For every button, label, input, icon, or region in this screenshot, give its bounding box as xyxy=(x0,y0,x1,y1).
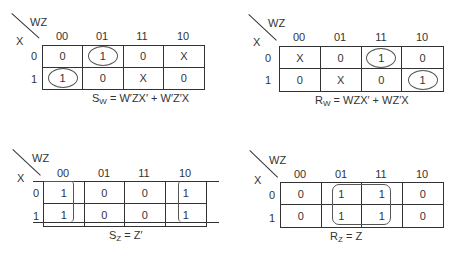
group-rectangle xyxy=(332,184,391,225)
kmap-cell: 0 xyxy=(403,183,444,205)
equation: RZ = Z xyxy=(330,230,362,244)
kmap-cell: 0 xyxy=(281,183,322,205)
var-label-top: WZ xyxy=(269,154,286,166)
col-header: 10 xyxy=(402,168,442,180)
row-header: 0 xyxy=(269,189,275,201)
row-header: 1 xyxy=(269,212,275,224)
kmap-cell: 0 xyxy=(403,205,444,227)
col-header: 01 xyxy=(321,168,361,180)
kmap-cell: 0 xyxy=(281,205,322,227)
col-header: 00 xyxy=(280,168,320,180)
col-header: 11 xyxy=(361,168,401,180)
var-label-left: X xyxy=(254,174,261,186)
kmap-rz: WZ X 00 01 11 10 0 1 0 1 1 0 0 1 1 0 RZ … xyxy=(0,0,454,259)
